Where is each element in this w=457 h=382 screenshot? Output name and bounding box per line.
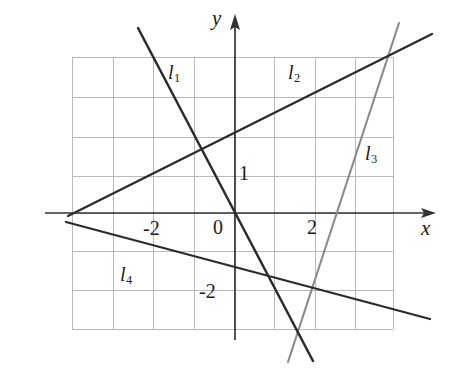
line-label-l1-sub: 1 <box>174 71 181 85</box>
line-label-l4-base: l <box>120 263 126 285</box>
y-tick-label-1: 1 <box>239 163 249 183</box>
line-label-l2-base: l <box>288 61 294 83</box>
line-label-l3-sub: 3 <box>371 152 378 166</box>
x-tick-label-neg2: -2 <box>143 218 160 238</box>
plotted-lines-group <box>66 23 432 362</box>
line-label-l4-sub: 4 <box>126 273 133 287</box>
line-label-l3: l3 <box>365 143 377 166</box>
origin-label: 0 <box>213 217 223 237</box>
line-l1 <box>138 28 313 361</box>
y-axis-label: y <box>212 8 221 29</box>
coordinate-plane-figure: y x 0 -2 2 1 -2 l1 l2 l3 l4 <box>0 0 457 382</box>
line-label-l1: l1 <box>168 62 180 85</box>
line-label-l2: l2 <box>288 62 300 85</box>
line-label-l4: l4 <box>120 264 132 287</box>
line-label-l2-sub: 2 <box>294 71 301 85</box>
line-l2 <box>68 34 432 216</box>
x-tick-label-2: 2 <box>307 217 317 237</box>
x-axis-label: x <box>421 218 430 239</box>
line-l3 <box>288 23 399 362</box>
grid-lines <box>72 57 393 329</box>
line-label-l1-base: l <box>168 61 174 83</box>
line-label-l3-base: l <box>365 142 371 164</box>
graph-canvas <box>0 0 457 382</box>
y-tick-label-neg2: -2 <box>199 281 216 301</box>
